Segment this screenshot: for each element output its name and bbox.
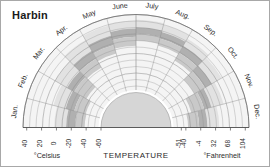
polar-chart-canvas: Jan.Feb.Mar.Apr.MayJuneJulyAug.Sep.Oct.N…: [1, 1, 270, 167]
month-label-june: June: [112, 1, 129, 11]
celsius-tick-label: -20: [65, 138, 72, 148]
month-label-feb: Feb.: [16, 72, 30, 89]
month-label-july: July: [145, 1, 159, 11]
celsius-unit-label: °Celsius: [34, 151, 61, 160]
month-label-dec: Dec.: [252, 104, 263, 120]
fahrenheit-tick-label: -4: [195, 140, 202, 146]
axis-title: TEMPERATURE: [103, 151, 168, 160]
fahrenheit-unit-label: °Fahrenheit: [203, 151, 240, 160]
celsius-tick-label: 40: [21, 140, 28, 148]
month-label-may: May: [81, 7, 97, 21]
fahrenheit-tick-label: -40: [180, 138, 187, 148]
month-label-sep: Sep.: [202, 22, 219, 38]
month-label-jan: Jan.: [9, 104, 20, 119]
month-label-nov: Nov.: [242, 72, 256, 89]
month-label-mar: Mar.: [31, 45, 47, 62]
climate-polar-chart-figure: Harbin Jan.Feb.Mar.Apr.MayJuneJulyAug.Se…: [0, 0, 270, 167]
month-label-aug: Aug.: [174, 7, 191, 21]
fahrenheit-tick-label: 68: [224, 140, 231, 148]
celsius-tick-label: -40: [80, 138, 87, 148]
fahrenheit-tick-label: 104: [239, 138, 246, 149]
month-label-oct: Oct.: [226, 45, 241, 61]
celsius-tick-label: -60: [95, 138, 102, 148]
month-label-apr: Apr.: [54, 23, 70, 38]
fahrenheit-tick-label: 32: [210, 140, 217, 148]
celsius-tick-label: 0: [50, 141, 57, 145]
celsius-tick-label: 20: [36, 140, 43, 148]
